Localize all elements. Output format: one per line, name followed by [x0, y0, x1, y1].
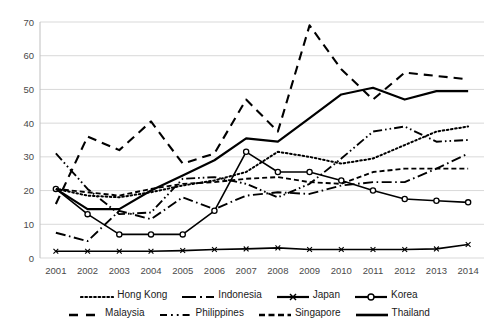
legend-row-bottom: MalaysiaPhilippinesSingaporeThailand: [61, 304, 437, 322]
legend-label: Japan: [313, 289, 340, 301]
legend-key-dotted-icon: [80, 289, 114, 301]
x-tick-label-2001: 2001: [45, 265, 66, 276]
legend-key-dash-dot-icon: [181, 289, 215, 301]
x-tick-label-2002: 2002: [77, 265, 98, 276]
y-tick-label-10: 10: [23, 219, 34, 230]
marker-korea-2013: [434, 198, 439, 203]
legend-label: Hong Kong: [117, 289, 167, 301]
series-line-malaysia: [56, 25, 468, 204]
legend-item-malaysia[interactable]: Malaysia: [68, 307, 144, 319]
chart-legend: Hong KongIndonesiaJapanKorea MalaysiaPhi…: [0, 286, 498, 330]
x-tick-label-2006: 2006: [204, 265, 225, 276]
legend-label: Korea: [391, 289, 418, 301]
x-tick-label-2007: 2007: [236, 265, 257, 276]
legend-item-thailand[interactable]: Thailand: [355, 307, 430, 319]
y-tick-label-0: 0: [29, 253, 34, 264]
x-tick-label-2011: 2011: [363, 265, 383, 276]
marker-korea-2007: [244, 149, 249, 154]
x-tick-label-2009: 2009: [299, 265, 320, 276]
legend-key-long-dash-icon: [68, 307, 102, 319]
legend-label: Singapore: [295, 307, 341, 319]
data-series-group: [53, 25, 470, 253]
legend-label: Indonesia: [218, 289, 261, 301]
marker-korea-2009: [307, 169, 312, 174]
marker-korea-2006: [212, 208, 217, 213]
line-chart-svg: 010203040506070 200120022003200420052006…: [0, 0, 498, 288]
x-tick-label-2013: 2013: [426, 265, 447, 276]
y-tick-label-30: 30: [23, 151, 34, 162]
legend-item-indonesia[interactable]: Indonesia: [181, 289, 261, 301]
marker-korea-2012: [402, 196, 407, 201]
legend-item-korea[interactable]: Korea: [354, 289, 418, 301]
y-tick-label-40: 40: [23, 118, 34, 129]
x-tick-label-2014: 2014: [458, 265, 479, 276]
legend-item-hong-kong[interactable]: Hong Kong: [80, 289, 167, 301]
legend-label: Thailand: [392, 307, 430, 319]
legend-key-dash-dot-dot-icon: [159, 307, 193, 319]
x-tick-label-2012: 2012: [394, 265, 415, 276]
legend-key-solid-thick-icon: [355, 307, 389, 319]
chart-plot-area: 010203040506070 200120022003200420052006…: [0, 0, 498, 288]
legend-item-philippines[interactable]: Philippines: [159, 307, 244, 319]
y-tick-label-70: 70: [23, 17, 34, 28]
chart-page: 010203040506070 200120022003200420052006…: [0, 0, 498, 330]
y-axis-ticks-group: 010203040506070: [23, 17, 34, 264]
x-tick-label-2008: 2008: [267, 265, 288, 276]
marker-korea-2008: [275, 169, 280, 174]
legend-item-japan[interactable]: Japan: [276, 289, 340, 301]
marker-korea-2005: [180, 232, 185, 237]
legend-row-top: Hong KongIndonesiaJapanKorea: [73, 286, 424, 304]
x-tick-label-2010: 2010: [331, 265, 352, 276]
x-tick-label-2003: 2003: [109, 265, 130, 276]
y-tick-label-20: 20: [23, 185, 34, 196]
marker-korea-2003: [117, 232, 122, 237]
x-axis-ticks-group: 2001200220032004200520062007200820092010…: [45, 265, 478, 276]
legend-item-singapore[interactable]: Singapore: [258, 307, 341, 319]
x-tick-label-2005: 2005: [172, 265, 193, 276]
legend-key-solid-marker-cross-icon: [276, 289, 310, 301]
x-tick-label-2004: 2004: [140, 265, 161, 276]
marker-korea-2002: [85, 212, 90, 217]
legend-key-solid-marker-circle-icon: [354, 289, 388, 301]
marker-korea-2004: [148, 232, 153, 237]
y-tick-label-50: 50: [23, 84, 34, 95]
marker-korea-2014: [466, 200, 471, 205]
legend-label: Malaysia: [105, 307, 144, 319]
legend-key-dashed-icon: [258, 307, 292, 319]
legend-label: Philippines: [196, 307, 244, 319]
marker-korea-2011: [370, 188, 375, 193]
y-tick-label-60: 60: [23, 50, 34, 61]
